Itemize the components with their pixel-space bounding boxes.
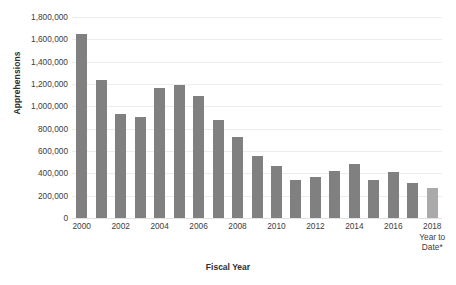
bar — [427, 188, 438, 218]
x-tick-label-line: Year to — [409, 232, 455, 243]
gridline — [72, 106, 442, 107]
x-axis-title: Fiscal Year — [0, 262, 456, 272]
gridline — [72, 39, 442, 40]
bar — [115, 114, 126, 218]
bar — [96, 80, 107, 218]
y-tick-label: 1,200,000 — [6, 79, 68, 89]
bar — [310, 177, 321, 218]
bar — [329, 171, 340, 218]
x-tick-label: 2018Year toDate* — [409, 221, 455, 253]
bar — [388, 172, 399, 218]
plot-area — [72, 17, 442, 218]
bar — [368, 180, 379, 218]
bar — [213, 120, 224, 218]
y-tick-label: 600,000 — [6, 146, 68, 156]
bar — [76, 34, 87, 218]
bar — [271, 166, 282, 218]
x-tick-label-line: Date* — [409, 242, 455, 253]
y-tick-label: 400,000 — [6, 168, 68, 178]
y-tick-label: 200,000 — [6, 191, 68, 201]
gridline — [72, 84, 442, 85]
bar-chart: Apprehensions 1,800,0001,600,0001,400,00… — [0, 0, 456, 285]
gridline — [72, 129, 442, 130]
y-tick-label: 1,400,000 — [6, 57, 68, 67]
bar — [135, 117, 146, 218]
bar — [174, 85, 185, 218]
gridline — [72, 151, 442, 152]
gridline — [72, 62, 442, 63]
bar — [290, 180, 301, 218]
bar — [193, 96, 204, 218]
bar — [349, 164, 360, 218]
bar — [252, 156, 263, 218]
bar — [232, 137, 243, 218]
y-tick-label: 1,000,000 — [6, 101, 68, 111]
bar — [407, 183, 418, 218]
y-tick-label: 1,800,000 — [6, 12, 68, 22]
x-tick-label-line: 2018 — [409, 221, 455, 232]
gridline — [72, 17, 442, 18]
y-tick-label: 800,000 — [6, 124, 68, 134]
gridline — [72, 218, 442, 219]
bar — [154, 88, 165, 218]
y-tick-label: 1,600,000 — [6, 34, 68, 44]
